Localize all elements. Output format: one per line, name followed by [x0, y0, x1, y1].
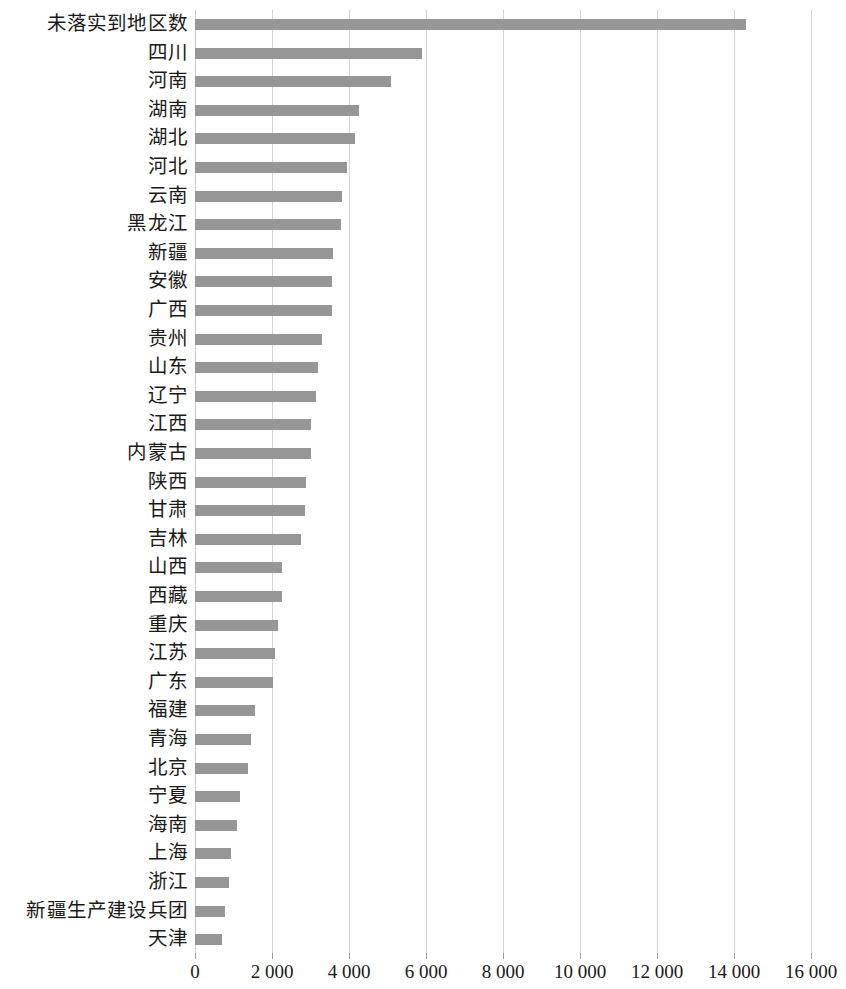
- bar-row: [195, 153, 811, 182]
- bar[interactable]: [195, 677, 273, 688]
- x-tick-label: 10 000: [554, 961, 606, 983]
- bar[interactable]: [195, 705, 255, 716]
- bar[interactable]: [195, 648, 275, 659]
- bar-row: [195, 582, 811, 611]
- category-label: 新疆生产建设兵团: [26, 897, 188, 926]
- x-tick-14000: [734, 953, 735, 959]
- category-label: 海南: [148, 811, 188, 840]
- bar[interactable]: [195, 534, 301, 545]
- bar[interactable]: [195, 906, 225, 917]
- category-label: 甘肃: [148, 496, 188, 525]
- bar[interactable]: [195, 133, 355, 144]
- category-label: 未落实到地区数: [47, 10, 188, 39]
- x-tick-0: [195, 953, 196, 959]
- bar[interactable]: [195, 505, 305, 516]
- category-label: 广东: [148, 668, 188, 697]
- category-label: 浙江: [148, 868, 188, 897]
- x-tick-16000: [811, 953, 812, 959]
- category-label: 山西: [148, 553, 188, 582]
- x-tick-10000: [580, 953, 581, 959]
- bar[interactable]: [195, 477, 306, 488]
- bar[interactable]: [195, 305, 332, 316]
- bar[interactable]: [195, 19, 746, 30]
- bar-row: [195, 925, 811, 954]
- bar-row: [195, 811, 811, 840]
- bar[interactable]: [195, 820, 237, 831]
- bar[interactable]: [195, 591, 282, 602]
- bar[interactable]: [195, 276, 332, 287]
- category-label: 辽宁: [148, 382, 188, 411]
- bar[interactable]: [195, 105, 359, 116]
- x-tick-label: 16 000: [785, 961, 837, 983]
- bar[interactable]: [195, 448, 311, 459]
- x-tick-label: 6 000: [405, 961, 448, 983]
- category-label: 江西: [148, 410, 188, 439]
- plot-area: [195, 10, 811, 953]
- bar[interactable]: [195, 248, 333, 259]
- category-label: 天津: [148, 925, 188, 954]
- bar-row: [195, 267, 811, 296]
- bar-row: [195, 410, 811, 439]
- bar-rows: [195, 10, 811, 953]
- x-tick-label: 4 000: [328, 961, 371, 983]
- bar-row: [195, 754, 811, 783]
- bar[interactable]: [195, 562, 282, 573]
- bar[interactable]: [195, 419, 311, 430]
- bar[interactable]: [195, 763, 248, 774]
- bar-row: [195, 210, 811, 239]
- category-label: 北京: [148, 754, 188, 783]
- bar[interactable]: [195, 48, 422, 59]
- category-label: 黑龙江: [127, 210, 188, 239]
- category-label: 宁夏: [148, 782, 188, 811]
- category-label: 河北: [148, 153, 188, 182]
- category-axis-labels: 未落实到地区数四川河南湖南湖北河北云南黑龙江新疆安徽广西贵州山东辽宁江西内蒙古陕…: [0, 10, 188, 953]
- category-label: 四川: [148, 39, 188, 68]
- bar[interactable]: [195, 791, 240, 802]
- bar[interactable]: [195, 362, 318, 373]
- bar-row: [195, 96, 811, 125]
- bar-row: [195, 67, 811, 96]
- bar-row: [195, 496, 811, 525]
- x-tick-label: 8 000: [482, 961, 525, 983]
- bar[interactable]: [195, 848, 231, 859]
- category-label: 吉林: [148, 525, 188, 554]
- bar[interactable]: [195, 162, 347, 173]
- bar[interactable]: [195, 391, 316, 402]
- x-tick-label: 2 000: [251, 961, 294, 983]
- x-tick-2000: [272, 953, 273, 959]
- bar[interactable]: [195, 620, 278, 631]
- category-label: 新疆: [148, 239, 188, 268]
- bar[interactable]: [195, 334, 322, 345]
- bar[interactable]: [195, 191, 342, 202]
- bar-row: [195, 668, 811, 697]
- bar[interactable]: [195, 76, 391, 87]
- bar-row: [195, 725, 811, 754]
- category-label: 陕西: [148, 468, 188, 497]
- x-tick-label: 0: [190, 961, 200, 983]
- bar[interactable]: [195, 734, 251, 745]
- bar-row: [195, 839, 811, 868]
- x-tick-label: 14 000: [708, 961, 760, 983]
- category-label: 贵州: [148, 325, 188, 354]
- bar-row: [195, 325, 811, 354]
- category-label: 安徽: [148, 267, 188, 296]
- category-label: 内蒙古: [127, 439, 188, 468]
- category-label: 江苏: [148, 639, 188, 668]
- x-tick-label: 12 000: [631, 961, 683, 983]
- bar[interactable]: [195, 219, 341, 230]
- category-label: 上海: [148, 839, 188, 868]
- bar[interactable]: [195, 934, 222, 945]
- bar-row: [195, 782, 811, 811]
- bar-row: [195, 639, 811, 668]
- category-label: 福建: [148, 696, 188, 725]
- category-label: 青海: [148, 725, 188, 754]
- bar-row: [195, 182, 811, 211]
- bar[interactable]: [195, 877, 229, 888]
- x-tick-6000: [426, 953, 427, 959]
- category-label: 广西: [148, 296, 188, 325]
- bar-row: [195, 353, 811, 382]
- bar-row: [195, 239, 811, 268]
- category-label: 湖南: [148, 96, 188, 125]
- bar-row: [195, 611, 811, 640]
- bar-row: [195, 553, 811, 582]
